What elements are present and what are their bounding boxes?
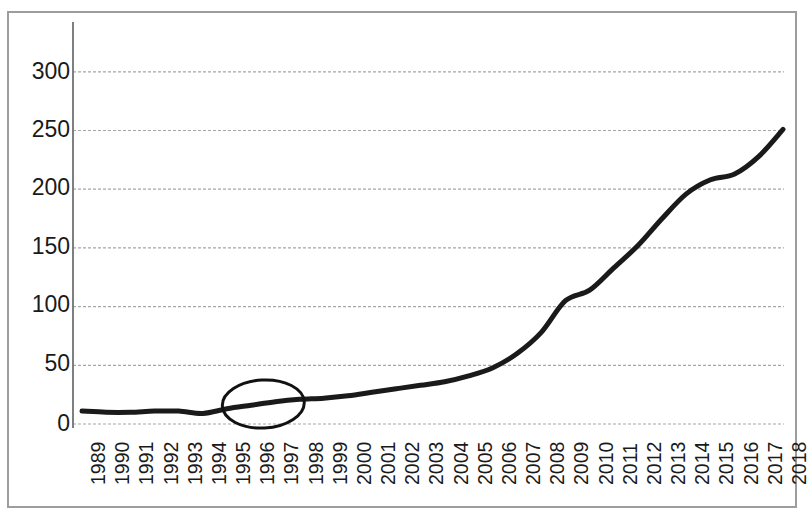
data-series-line: [82, 129, 783, 413]
gridlines-group: [73, 72, 784, 424]
chart-container: 300 250 200 150 100 50 0 198919901991199…: [0, 0, 812, 518]
plot-area: [0, 0, 812, 518]
